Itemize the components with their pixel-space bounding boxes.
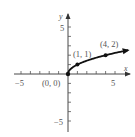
point-1-1 [75,63,79,67]
x-axis-label: x [123,64,128,73]
y-axis-label: y [58,12,63,21]
y-tick-label-neg5: −5 [54,117,63,127]
y-tick-label-5: 5 [60,23,64,33]
x-tick-label-5: 5 [111,78,115,88]
point-label-1-1: (1, 1) [73,49,92,59]
x-tick-label-neg5: −5 [15,78,24,88]
point-label-4-2: (4, 2) [100,39,119,49]
sqrt-graph: x y −5 5 5 −5 (0, 0) (1, 1) (4, 2) [0,0,135,137]
point-label-origin: (0, 0) [42,78,61,88]
point-4-2 [104,53,108,57]
point-origin [66,72,70,76]
